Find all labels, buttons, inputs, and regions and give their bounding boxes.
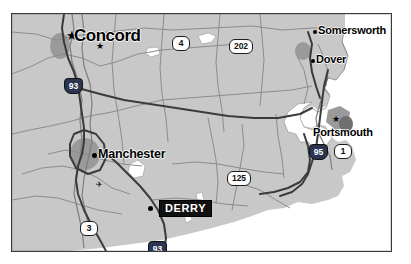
marker-somersworth-dot [313,30,317,34]
airport-icon-manchester: ✈ [96,181,103,188]
route-shield-us-202[interactable]: 202 [229,39,253,54]
route-shield-interstate-93-north[interactable]: 93 [64,78,83,94]
marker-derry-dot [148,206,153,211]
marker-manchester-dot [92,153,97,158]
route-shield-interstate-95[interactable]: 95 [309,144,328,160]
map-canvas[interactable]: ★ ★ ★ ✈ Concord Manchester DERRY Somersw… [12,14,391,251]
place-label-portsmouth[interactable]: Portsmouth [313,126,373,138]
route-shield-us-1[interactable]: 1 [334,144,352,159]
place-label-derry-highlighted[interactable]: DERRY [159,200,212,217]
place-label-somersworth[interactable]: Somersworth [318,24,386,36]
route-shield-interstate-93-south[interactable]: 93 [148,241,167,252]
place-label-dover[interactable]: Dover [316,53,346,65]
route-shield-us-4[interactable]: 4 [172,36,190,51]
marker-portsmouth-star: ★ [332,116,340,123]
place-label-concord[interactable]: Concord [74,26,140,46]
map-frame: ★ ★ ★ ✈ Concord Manchester DERRY Somersw… [11,13,392,252]
route-shield-us-3[interactable]: 3 [80,221,98,236]
route-shield-nh-125[interactable]: 125 [227,171,251,186]
marker-dover-dot [311,59,315,63]
place-label-manchester[interactable]: Manchester [98,147,165,161]
map-screenshot: ★ ★ ★ ✈ Concord Manchester DERRY Somersw… [0,0,411,264]
